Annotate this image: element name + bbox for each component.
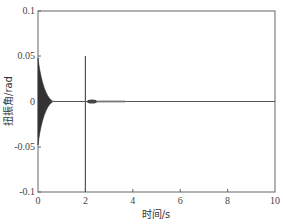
x-tick-label: 0 [36, 195, 41, 206]
chart: 0.1 0.05 0 -0.05 -0.1 0 2 4 6 8 10 时间/s … [0, 0, 283, 224]
y-axis-label: 扭振角/rad [2, 76, 14, 126]
oscillation-burst [87, 100, 97, 104]
y-tick-label: 0.1 [23, 5, 36, 16]
y-tick-label: -0.1 [19, 186, 35, 197]
y-tick-label: 0.05 [18, 50, 36, 61]
y-tick-label: 0 [30, 96, 35, 107]
y-tick-label: -0.05 [14, 141, 35, 152]
x-tick-label: 2 [83, 195, 88, 206]
x-tick-label: 8 [225, 195, 230, 206]
y-axis: 0.1 0.05 0 -0.05 -0.1 [14, 5, 41, 197]
x-axis-label: 时间/s [142, 208, 171, 220]
x-tick-label: 4 [130, 195, 135, 206]
x-tick-label: 6 [178, 195, 183, 206]
data-series [38, 56, 275, 192]
x-tick-label: 10 [270, 195, 280, 206]
